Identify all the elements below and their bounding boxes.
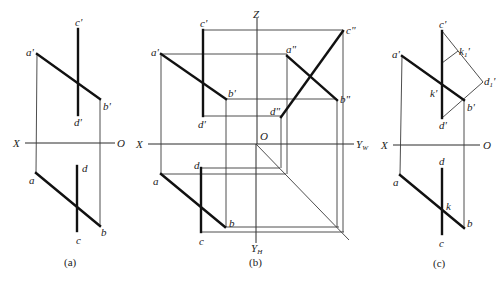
label-b: b <box>467 217 473 229</box>
line-ab-side <box>287 56 337 100</box>
panel-a: X O a' b' c' d' a b c d (a) <box>12 16 125 269</box>
label-c: c <box>439 237 444 249</box>
label-a: a <box>153 175 159 187</box>
miter-line-45 <box>256 144 349 240</box>
axis-label-o: O <box>117 137 125 149</box>
label-d: d <box>194 159 200 171</box>
caption-b: (b) <box>249 256 262 269</box>
label-k-prime: k' <box>430 87 438 99</box>
label-a-double-prime: a" <box>286 43 297 55</box>
panel-c: X O a' b' c' d' k' k1' d1' a b c d k (c) <box>380 18 496 270</box>
label-d1-prime: d1' <box>484 75 496 89</box>
axis-label-x: X <box>12 137 21 149</box>
label-d-prime: d' <box>74 116 83 128</box>
line-ab-top <box>161 174 225 227</box>
label-d-double-prime: d" <box>270 105 281 117</box>
aux-line-k1 <box>442 51 458 63</box>
line-ab-top <box>400 175 464 228</box>
panel-b: X O Z YW YH a' b' c' d' a" b" c" d" a b … <box>135 8 369 269</box>
label-d: d <box>439 155 445 167</box>
label-a: a <box>29 174 35 186</box>
label-b-prime: b' <box>103 100 112 112</box>
label-c-prime: c' <box>200 17 208 29</box>
axis-label-z: Z <box>253 8 260 20</box>
projection-line-a <box>36 54 37 173</box>
label-a-prime: a' <box>151 46 160 58</box>
axis-label-o: O <box>260 130 268 142</box>
label-k1-prime: k1' <box>459 45 470 59</box>
label-d-prime: d' <box>198 118 207 130</box>
axis-label-x: X <box>135 138 144 150</box>
label-c: c <box>199 235 204 247</box>
line-ab-top <box>36 173 100 226</box>
axis-label-yh: YH <box>251 242 263 256</box>
caption-a: (a) <box>64 256 77 269</box>
label-c-double-prime: c" <box>346 24 356 36</box>
axis-label-yw: YW <box>356 138 369 152</box>
label-b-prime: b' <box>228 87 237 99</box>
projection-diagram: X O a' b' c' d' a b c d (a) <box>0 0 502 287</box>
label-a-prime: a' <box>392 48 401 60</box>
label-d-prime: d' <box>439 119 448 131</box>
label-b: b <box>229 217 235 229</box>
axis-label-o: O <box>483 139 491 151</box>
label-b: b <box>101 226 107 238</box>
label-a: a <box>393 176 399 188</box>
label-a-prime: a' <box>26 46 35 58</box>
label-c-prime: c' <box>439 18 447 30</box>
caption-c: (c) <box>433 257 446 270</box>
axis-label-x: X <box>380 139 389 151</box>
line-ab-front <box>161 54 226 99</box>
label-b-prime: b' <box>467 101 476 113</box>
label-c-prime: c' <box>75 16 83 28</box>
label-c: c <box>76 234 81 246</box>
projection-line-a <box>400 56 402 175</box>
line-ab-front <box>37 54 100 99</box>
label-b-double-prime: b" <box>340 93 351 105</box>
label-k: k <box>446 200 452 212</box>
label-d: d <box>82 162 88 174</box>
